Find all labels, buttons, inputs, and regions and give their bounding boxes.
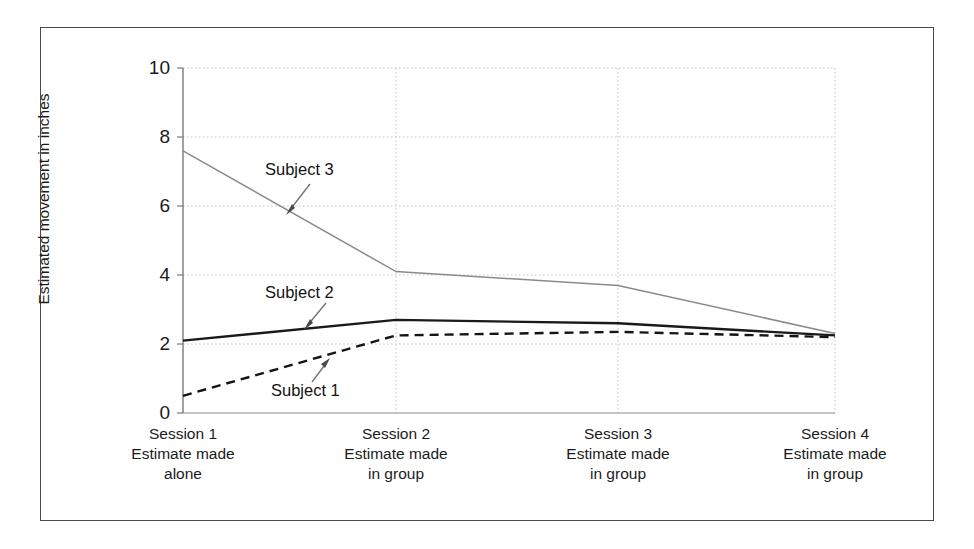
- series-label-subject-3: Subject 3: [265, 160, 334, 179]
- y-axis-ticks: [177, 68, 183, 413]
- x-category-session-1-line3: alone: [88, 464, 278, 484]
- y-tick-label-4: 4: [136, 264, 170, 286]
- x-category-session-1-line2: Estimate made: [88, 444, 278, 464]
- axis-lines: [183, 68, 835, 413]
- x-category-session-2-line1: Session 2: [301, 424, 491, 444]
- x-category-session-4-line3: in group: [740, 464, 930, 484]
- y-tick-label-10: 10: [136, 57, 170, 79]
- x-category-session-3: Session 3 Estimate made in group: [523, 424, 713, 484]
- series-label-subject-2: Subject 2: [265, 283, 334, 302]
- vertical-gridlines: [396, 68, 835, 413]
- x-category-session-2: Session 2 Estimate made in group: [301, 424, 491, 484]
- x-category-session-1: Session 1 Estimate made alone: [88, 424, 278, 484]
- y-axis-title: Estimated movement in inches: [35, 69, 53, 329]
- series-label-subject-1: Subject 1: [271, 381, 340, 400]
- y-tick-label-6: 6: [136, 195, 170, 217]
- y-tick-label-2: 2: [136, 333, 170, 355]
- series-line-subject-2: [183, 320, 835, 341]
- x-category-session-3-line2: Estimate made: [523, 444, 713, 464]
- x-category-session-2-line2: Estimate made: [301, 444, 491, 464]
- x-category-session-1-line1: Session 1: [88, 424, 278, 444]
- y-tick-label-8: 8: [136, 126, 170, 148]
- y-tick-label-0: 0: [136, 402, 170, 424]
- x-category-session-4-line1: Session 4: [740, 424, 930, 444]
- annotation-arrow-subject-3: [286, 184, 310, 215]
- x-category-session-2-line3: in group: [301, 464, 491, 484]
- x-category-session-3-line3: in group: [523, 464, 713, 484]
- annotation-arrow-subject-1: [312, 358, 330, 382]
- x-category-session-4-line2: Estimate made: [740, 444, 930, 464]
- x-category-session-4: Session 4 Estimate made in group: [740, 424, 930, 484]
- x-category-session-3-line1: Session 3: [523, 424, 713, 444]
